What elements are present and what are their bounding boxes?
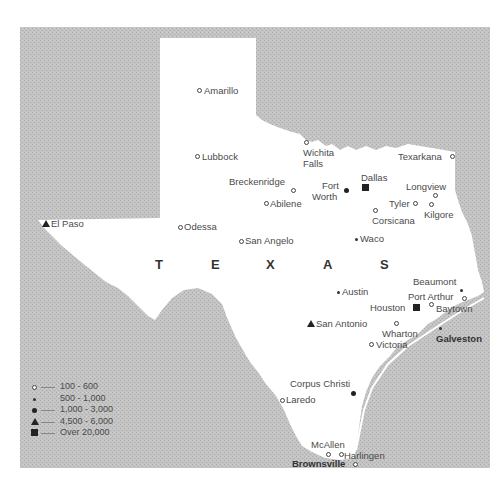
legend-label: 500 - 1,000: [60, 393, 106, 403]
legend-label: 4,500 - 6,000: [60, 416, 113, 426]
city-marker-el-paso: [42, 220, 50, 227]
city-label-san-angelo: San Angelo: [245, 235, 294, 246]
city-label-corsicana: Corsicana: [372, 215, 415, 226]
city-label-kilgore: Kilgore: [424, 209, 454, 220]
city-label-tyler: Tyler: [389, 198, 410, 209]
square-icon: [31, 429, 38, 436]
legend-row: 100 - 600: [30, 381, 113, 393]
city-label-harlingen: Harlingen: [344, 450, 385, 461]
city-marker-austin: [337, 291, 340, 294]
city-label-brownsville: Brownsville: [292, 458, 345, 469]
city-marker-lubbock: [195, 154, 200, 159]
legend-dash: [41, 433, 55, 434]
population-legend: 100 - 600 500 - 1,000 1,000 - 3,000 4,50…: [30, 381, 113, 439]
city-label-waco: Waco: [360, 233, 384, 244]
city-marker-longview: [433, 193, 438, 198]
city-marker-port-arthur: [462, 296, 467, 301]
city-label-san-antonio: San Antonio: [316, 318, 367, 329]
state-letter: T: [155, 257, 163, 272]
city-label-austin: Austin: [342, 286, 368, 297]
filled-circle-icon: [32, 408, 37, 413]
city-marker-houston: [413, 304, 420, 311]
city-marker-san-antonio: [307, 320, 315, 327]
city-marker-amarillo: [197, 88, 202, 93]
city-label-port-arthur: Port Arthur: [408, 291, 453, 302]
legend-dash: [41, 410, 55, 411]
legend-row: 1,000 - 3,000: [30, 404, 113, 416]
city-marker-wichita-falls: [304, 140, 309, 145]
city-marker-breckenridge: [291, 188, 296, 193]
city-marker-abilene: [264, 201, 269, 206]
city-marker-odessa: [178, 225, 183, 230]
city-marker-fort-worth: [344, 188, 349, 193]
state-letter: E: [211, 257, 220, 272]
city-marker-corsicana: [373, 208, 378, 213]
city-label-houston: Houston: [370, 302, 405, 313]
city-label-mcallen: McAllen: [311, 439, 345, 450]
legend-label: 1,000 - 3,000: [60, 404, 113, 414]
triangle-icon: [31, 418, 39, 425]
city-marker-dallas: [362, 184, 369, 191]
city-label-baytown: Baytown: [436, 303, 472, 314]
city-label-worth: Worth: [312, 191, 337, 202]
city-marker-baytown: [429, 302, 434, 307]
city-marker-victoria: [369, 342, 374, 347]
city-label-amarillo: Amarillo: [204, 85, 238, 96]
city-label-breckenridge: Breckenridge: [229, 176, 285, 187]
city-marker-laredo: [280, 398, 285, 403]
city-marker-brownsville: [353, 462, 358, 467]
city-label-falls: Falls: [303, 158, 323, 169]
city-label-wichita: Wichita: [303, 147, 334, 158]
open-circle-icon: [32, 385, 37, 390]
city-label-odessa: Odessa: [184, 221, 217, 232]
city-label-lubbock: Lubbock: [202, 151, 238, 162]
city-marker-corpus-christi: [351, 391, 356, 396]
city-label-corpus-christi: Corpus Christi: [290, 378, 350, 389]
city-marker-wharton: [394, 321, 399, 326]
city-label-laredo: Laredo: [286, 394, 316, 405]
city-label-wharton: Wharton: [382, 328, 418, 339]
legend-row: 500 - 1,000: [30, 393, 113, 405]
legend-label: Over 20,000: [60, 427, 110, 437]
legend-dash: [41, 387, 55, 388]
city-marker-tyler: [413, 201, 418, 206]
state-letter: S: [380, 257, 389, 272]
city-label-dallas: Dallas: [361, 172, 387, 183]
city-marker-beaumont: [460, 289, 463, 292]
city-label-abilene: Abilene: [270, 198, 302, 209]
city-label-el-paso: El Paso: [51, 218, 84, 229]
city-marker-texarkana: [450, 154, 455, 159]
city-label-texarkana: Texarkana: [398, 151, 442, 162]
legend-dash: [41, 422, 55, 423]
city-marker-waco: [355, 238, 358, 241]
city-label-galveston: Galveston: [436, 333, 482, 344]
city-marker-san-angelo: [239, 239, 244, 244]
city-label-victoria: Victoria: [376, 339, 408, 350]
legend-label: 100 - 600: [60, 381, 98, 391]
city-label-fort: Fort: [322, 180, 339, 191]
city-marker-kilgore: [429, 202, 434, 207]
state-letter: A: [323, 257, 332, 272]
city-label-beaumont: Beaumont: [413, 276, 456, 287]
legend-row: 4,500 - 6,000: [30, 416, 113, 428]
city-marker-mcallen: [326, 452, 331, 457]
city-label-longview: Longview: [406, 181, 446, 192]
city-marker-galveston: [439, 327, 442, 330]
small-dot-icon: [33, 398, 36, 401]
state-letter: X: [266, 257, 275, 272]
legend-row: Over 20,000: [30, 427, 113, 439]
